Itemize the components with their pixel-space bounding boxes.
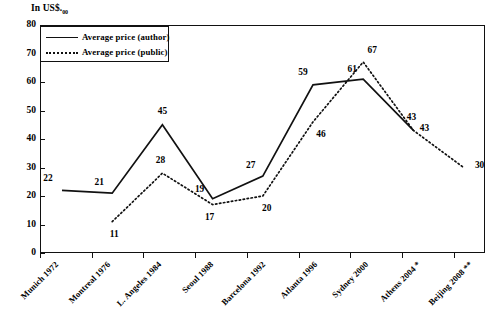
legend-item-public: Average price (public) [46, 45, 168, 59]
y-tick-label: 0 [14, 248, 36, 258]
data-point-value-label: 11 [110, 230, 119, 239]
data-point-value-label: 27 [246, 161, 255, 170]
x-tick-mark [40, 253, 41, 258]
legend-swatch-dotted-icon [46, 48, 78, 56]
y-tick-label: 60 [14, 77, 36, 87]
y-axis-unit-label: In US$.00 [31, 3, 68, 15]
y-tick-mark [40, 225, 45, 226]
data-point-value-label: 45 [158, 107, 167, 116]
x-tick-mark [247, 253, 248, 258]
data-point-value-label: 17 [205, 213, 214, 222]
line-chart: In US$.00 01020304050607080 Munich 1972M… [0, 0, 502, 316]
data-point-value-label: 28 [156, 156, 165, 165]
y-axis-unit-subscript: 00 [62, 9, 67, 15]
y-tick-label: 70 [14, 49, 36, 59]
y-tick-label: 30 [14, 163, 36, 173]
data-point-value-label: 20 [262, 204, 271, 213]
y-axis-unit-text: In US$. [31, 3, 62, 13]
y-tick-label: 40 [14, 134, 36, 144]
legend-label-author: Average price (author) [82, 32, 170, 42]
data-point-value-label: 19 [195, 185, 204, 194]
x-axis-category-label: L. Angeles 1984 [116, 260, 164, 308]
x-axis-category-label: Seoul 1988 [181, 260, 216, 295]
x-tick-mark [92, 253, 93, 258]
x-axis-category-label: Beijing 2008 ** [427, 260, 474, 307]
x-tick-mark [299, 253, 300, 258]
y-tick-label: 20 [14, 191, 36, 201]
data-point-value-label: 30 [475, 161, 484, 170]
data-point-value-label: 43 [407, 114, 416, 123]
x-axis-category-label: Munich 1972 [19, 260, 60, 301]
data-point-value-label: 59 [298, 68, 307, 77]
y-tick-mark [40, 168, 45, 169]
y-tick-label: 80 [14, 20, 36, 30]
legend-swatch-solid-icon [46, 33, 78, 41]
y-tick-mark [40, 82, 45, 83]
x-axis-category-label: Atlanta 1996 [279, 260, 319, 300]
legend: Average price (author) Average price (pu… [40, 26, 169, 62]
y-tick-mark [40, 196, 45, 197]
x-tick-mark [402, 253, 403, 258]
data-point-value-label: 67 [368, 46, 377, 55]
data-point-value-label: 46 [316, 130, 325, 139]
x-tick-mark [195, 253, 196, 258]
x-tick-mark [143, 253, 144, 258]
y-axis: 01020304050607080 [10, 25, 36, 253]
legend-item-author: Average price (author) [46, 30, 170, 44]
data-point-value-label: 61 [348, 65, 357, 74]
legend-label-public: Average price (public) [82, 47, 168, 57]
x-tick-mark [454, 253, 455, 258]
x-axis-category-label: Athens 2004 * [379, 260, 422, 303]
x-axis-category-label: Barcelona 1992 [220, 260, 267, 307]
y-tick-label: 50 [14, 106, 36, 116]
data-point-value-label: 22 [43, 175, 52, 184]
y-tick-mark [40, 111, 45, 112]
data-point-value-label: 21 [95, 178, 104, 187]
x-tick-mark [350, 253, 351, 258]
x-axis-category-label: Montreal 1976 [67, 260, 112, 305]
x-axis-category-label: Sydney 2000 [331, 260, 370, 299]
data-point-value-label: 43 [420, 125, 429, 134]
y-tick-mark [40, 139, 45, 140]
y-tick-label: 10 [14, 220, 36, 230]
